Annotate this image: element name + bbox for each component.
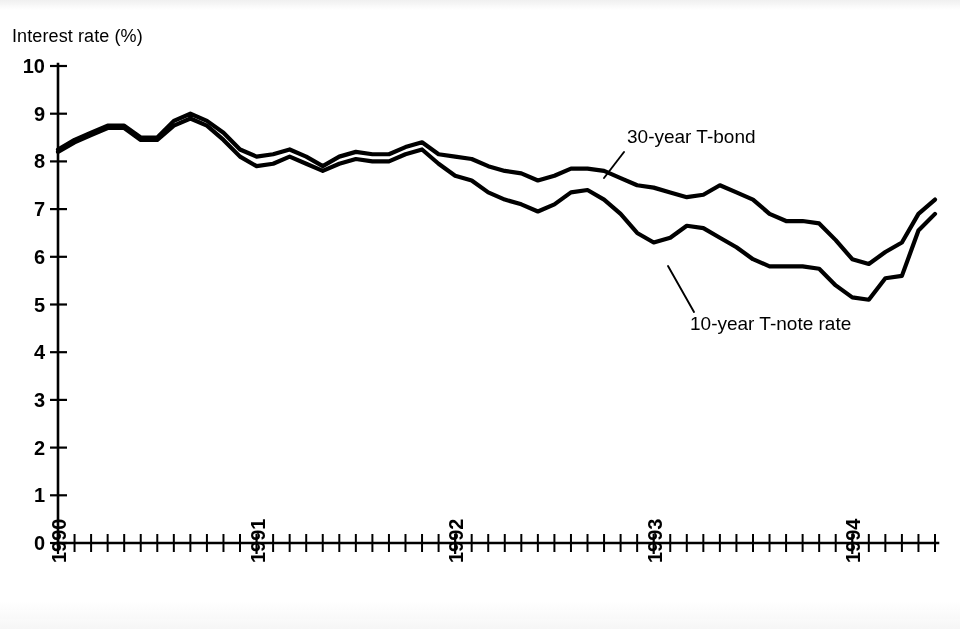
- y-tick-label: 5: [34, 294, 45, 316]
- x-tick-label: 1993: [644, 519, 666, 564]
- annotation-label-10-year-t-note: 10-year T-note rate: [690, 313, 851, 334]
- x-tick-label: 1994: [842, 518, 864, 563]
- y-axis: 012345678910: [23, 55, 67, 554]
- y-tick-label: 1: [34, 484, 45, 506]
- y-tick-label: 2: [34, 437, 45, 459]
- x-axis: 19901991199219931994: [48, 518, 938, 563]
- x-tick-label: 1992: [445, 519, 467, 564]
- series-line-30-year-t-bond: [58, 114, 935, 264]
- series-line-10-year-t-note-rate: [58, 118, 935, 299]
- x-tick-label: 1990: [48, 519, 70, 564]
- chart-axis-title: Interest rate (%): [12, 26, 143, 47]
- y-tick-label: 9: [34, 103, 45, 125]
- x-axis-tick-labels: 19901991199219931994: [48, 518, 864, 563]
- y-axis-tick-labels: 012345678910: [23, 55, 46, 554]
- annotations-group: 30-year T-bond 10-year T-note rate: [604, 126, 851, 334]
- y-tick-label: 8: [34, 150, 45, 172]
- y-tick-label: 4: [34, 341, 46, 363]
- y-tick-label: 7: [34, 198, 45, 220]
- y-tick-label: 6: [34, 246, 45, 268]
- x-tick-label: 1991: [247, 519, 269, 564]
- y-tick-label: 0: [34, 532, 45, 554]
- chart-figure: Interest rate (%) 012345678910 199019911…: [0, 0, 960, 629]
- leader-line-10-year-t-note: [668, 266, 694, 312]
- y-tick-label: 10: [23, 55, 45, 77]
- line-chart-plot: 012345678910 19901991199219931994 30-yea…: [0, 0, 960, 629]
- annotation-label-30-year-t-bond: 30-year T-bond: [627, 126, 756, 147]
- data-series-group: [58, 114, 935, 300]
- y-tick-label: 3: [34, 389, 45, 411]
